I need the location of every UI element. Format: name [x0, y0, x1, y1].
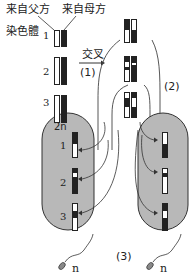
- gamete-left-chromosome-1: [72, 132, 78, 158]
- left-gamete-cell: [42, 113, 94, 230]
- paternal-chromosome-2: [54, 57, 60, 85]
- recombined-chromosome-2a: [124, 56, 130, 82]
- paternal-chromosome-3: [54, 95, 60, 123]
- cell-left-number-3: 3: [60, 212, 66, 222]
- chromosome-number-3: 3: [43, 98, 49, 108]
- haploid-right-label: n: [160, 263, 167, 275]
- recombined-chromosome-1a: [124, 19, 130, 43]
- recombined-chromosome-3a: [124, 92, 130, 118]
- step3-label: (3): [116, 251, 132, 263]
- sperm-right: [153, 234, 181, 262]
- maternal-chromosome-3: [61, 95, 67, 123]
- chromosome-number-1: 1: [43, 31, 49, 41]
- paternal-chromosome-1: [54, 30, 60, 47]
- recombined-chromosome-2b: [131, 56, 137, 82]
- gamete-right-chromosome-2: [162, 168, 168, 194]
- maternal-chromosome-1: [61, 30, 67, 47]
- cell-left-number-1: 1: [60, 141, 66, 151]
- sperm-left: [65, 234, 93, 262]
- crossover-label: 交叉: [82, 49, 104, 61]
- recombined-chromosome-1b: [131, 19, 137, 43]
- recombined-chromosome-3b: [131, 92, 137, 118]
- gamete-left-chromosome-2: [72, 168, 78, 194]
- chromosome-number-2: 2: [43, 67, 49, 77]
- maternal-chromosome-2: [61, 57, 67, 85]
- gamete-left-chromosome-3: [72, 203, 78, 231]
- step2-label: (2): [164, 81, 180, 93]
- chromosome-label: 染色體: [6, 26, 39, 38]
- step1-label: (1): [80, 67, 96, 79]
- maternal-label: 来自母方: [62, 4, 106, 16]
- gamete-right-chromosome-3: [162, 203, 168, 231]
- haploid-left-label: n: [72, 263, 79, 275]
- paternal-label: 来自父方: [6, 4, 50, 16]
- cell-left-number-2: 2: [60, 178, 66, 188]
- gamete-right-chromosome-1: [162, 132, 168, 158]
